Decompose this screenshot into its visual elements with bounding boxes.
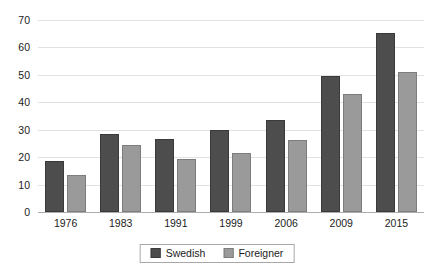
bar-group-1991 [148,20,203,212]
y-axis-tick-label: 50 [18,70,30,81]
y-axis-tick-label: 20 [18,152,30,163]
bar-group-2006 [259,20,314,212]
y-axis: 010203040506070 [0,20,34,212]
bar-foreigner-1991[interactable] [177,159,196,212]
y-axis-tick-label: 60 [18,42,30,53]
y-axis-tick-label: 10 [18,179,30,190]
x-axis: 1976198319911999200620092015 [38,214,424,232]
x-axis-tick-label: 1999 [203,214,258,232]
legend-item-foreigner[interactable]: Foreigner [223,248,283,259]
bar-foreigner-1999[interactable] [232,153,251,212]
bar-foreigner-1983[interactable] [122,145,141,212]
axis-baseline [38,212,424,213]
bar-group-1999 [203,20,258,212]
x-axis-tick-label: 2009 [314,214,369,232]
x-axis-tick-label: 2015 [369,214,424,232]
bar-swedish-1999[interactable] [210,130,229,212]
bar-group-1976 [38,20,93,212]
legend-label: Swedish [166,248,206,259]
bar-swedish-2006[interactable] [266,120,285,212]
legend-item-swedish[interactable]: Swedish [151,248,206,259]
y-axis-tick-label: 40 [18,97,30,108]
bar-group-2009 [314,20,369,212]
bar-swedish-2009[interactable] [321,76,340,212]
bar-groups [38,20,424,212]
bar-foreigner-1976[interactable] [67,175,86,212]
legend-swatch-icon [223,248,233,258]
bar-swedish-1983[interactable] [100,134,119,212]
chart-legend: SwedishForeigner [140,244,295,263]
legend-label: Foreigner [238,248,283,259]
x-axis-tick-label: 2006 [259,214,314,232]
bar-swedish-2015[interactable] [376,33,395,212]
bar-foreigner-2006[interactable] [288,140,307,212]
legend-swatch-icon [151,248,161,258]
y-axis-tick-label: 70 [18,15,30,26]
y-axis-tick-label: 30 [18,124,30,135]
bar-group-2015 [369,20,424,212]
y-axis-tick-label: 0 [24,207,30,218]
bar-group-1983 [93,20,148,212]
bar-swedish-1976[interactable] [45,161,64,212]
bar-foreigner-2009[interactable] [343,94,362,212]
x-axis-tick-label: 1976 [38,214,93,232]
x-axis-tick-label: 1983 [93,214,148,232]
bar-chart: 010203040506070 197619831991199920062009… [0,0,434,278]
bar-foreigner-2015[interactable] [398,72,417,212]
bar-swedish-1991[interactable] [155,139,174,213]
x-axis-tick-label: 1991 [148,214,203,232]
